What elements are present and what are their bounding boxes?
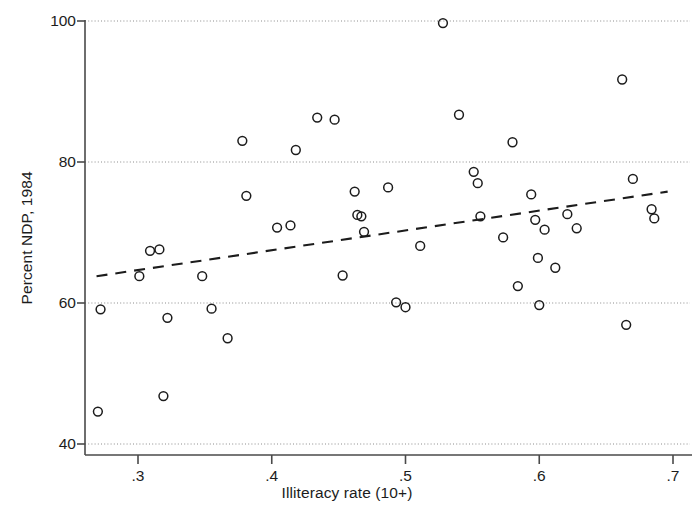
data-point <box>551 263 560 272</box>
data-point <box>469 167 478 176</box>
data-point <box>531 215 540 224</box>
data-point <box>155 245 164 254</box>
data-point <box>650 214 659 223</box>
scatter-plot-figure: Percent NDP, 1984 Illiteracy rate (10+) … <box>0 0 694 518</box>
data-point <box>286 221 295 230</box>
x-tick-label: .3 <box>132 467 145 485</box>
data-point <box>513 282 522 291</box>
data-point <box>540 225 549 234</box>
data-point <box>416 242 425 251</box>
data-point <box>242 191 251 200</box>
data-point <box>647 205 656 214</box>
x-tick-label: .4 <box>265 467 278 485</box>
x-tick-label: .7 <box>667 467 680 485</box>
data-point <box>534 253 543 262</box>
data-point <box>499 233 508 242</box>
data-point <box>439 19 448 28</box>
axis-lines-group <box>85 20 692 455</box>
y-tick-label: 60 <box>20 294 76 312</box>
data-point <box>238 136 247 145</box>
data-point <box>93 407 102 416</box>
trendline <box>97 192 668 277</box>
data-point <box>198 272 207 281</box>
data-point <box>313 113 322 122</box>
data-point <box>572 224 581 233</box>
data-point <box>527 190 536 199</box>
y-axis-title: Percent NDP, 1984 <box>18 171 36 304</box>
plot-canvas <box>0 0 694 518</box>
data-point <box>618 75 627 84</box>
data-point <box>628 175 637 184</box>
data-point <box>622 320 631 329</box>
data-point <box>159 392 168 401</box>
data-point <box>291 146 300 155</box>
data-point <box>330 115 339 124</box>
x-tick-label: .5 <box>399 467 412 485</box>
trendline-path <box>97 192 668 277</box>
data-point <box>473 179 482 188</box>
x-axis-title: Illiteracy rate (10+) <box>0 484 694 502</box>
data-point <box>223 334 232 343</box>
data-point <box>207 304 216 313</box>
data-point <box>563 210 572 219</box>
tick-marks-group <box>77 21 673 464</box>
data-point <box>163 313 172 322</box>
data-point <box>384 183 393 192</box>
data-points-group <box>93 19 658 416</box>
data-point <box>96 305 105 314</box>
data-point <box>273 223 282 232</box>
data-point <box>146 246 155 255</box>
data-point <box>535 301 544 310</box>
x-tick-label: .6 <box>533 467 546 485</box>
y-tick-label: 80 <box>20 153 76 171</box>
y-tick-label: 40 <box>20 435 76 453</box>
data-point <box>360 227 369 236</box>
data-point <box>135 272 144 281</box>
data-point <box>392 298 401 307</box>
data-point <box>455 110 464 119</box>
data-point <box>338 271 347 280</box>
data-point <box>350 187 359 196</box>
data-point <box>401 303 410 312</box>
y-tick-label: 100 <box>20 12 76 30</box>
data-point <box>508 138 517 147</box>
